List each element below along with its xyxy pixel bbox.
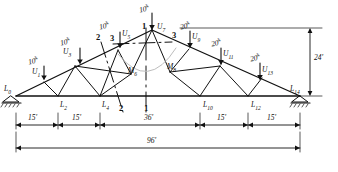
load-label-u9: 20k [179, 20, 191, 31]
dimension-line-overall [16, 132, 300, 152]
node-label-u3: U3 [63, 48, 71, 58]
node-label-u13: U13 [262, 66, 273, 76]
node-label-l12: L12 [251, 101, 261, 111]
node-label-l4: L4 [102, 101, 109, 111]
web-left-2 [58, 66, 75, 96]
web-left-strut [75, 66, 131, 74]
web-left-1 [44, 82, 58, 96]
dimension-label-96: 96' [147, 137, 156, 145]
node-label-u7: U7 [157, 23, 165, 33]
load-label-u13: 20k [249, 52, 261, 63]
load-label-u11: 20k [210, 37, 222, 48]
support-left [1, 96, 21, 107]
node-label-u1: U1 [32, 68, 40, 78]
truss-drawing [0, 0, 338, 172]
node-label-u11: U11 [223, 50, 234, 60]
dimension-label-15-c: 15' [217, 114, 226, 122]
web-left-3 [75, 66, 100, 96]
web-right-6 [248, 78, 262, 96]
dimension-line-panels [16, 113, 300, 129]
load-label-u1: 10k [27, 55, 39, 66]
section-marker-3-top: 3 [110, 34, 114, 43]
node-label-m6: M6 [128, 67, 137, 77]
section-marker-3-right: 3 [172, 31, 176, 40]
truss-diagram: 10k 10k 10k 10k 20k 20k 20k U1 U3 U5 U7 … [0, 0, 338, 172]
node-label-l10: L10 [203, 101, 213, 111]
web-right-3 [170, 72, 200, 96]
node-label-l2: L2 [60, 101, 67, 111]
node-label-l14: L14 [290, 85, 300, 95]
section-marker-2-bottom: 2 [119, 104, 123, 113]
load-label-u5: 10k [98, 20, 110, 31]
dimension-label-15-b: 15' [72, 114, 81, 122]
node-label-m8: M8 [167, 63, 176, 73]
web-right-strut [170, 66, 220, 72]
support-right [290, 96, 310, 107]
node-label-u5: U5 [122, 30, 130, 40]
dimension-label-36: 36' [144, 114, 153, 122]
web-right-4 [200, 66, 220, 96]
load-label-u3: 10k [59, 36, 71, 47]
load-arrows [41, 13, 263, 80]
dimension-label-15-a: 15' [28, 114, 37, 122]
section-marker-1-top: 1 [142, 22, 146, 31]
load-label-u7: 10k [138, 3, 150, 14]
dimension-label-15-d: 15' [267, 114, 276, 122]
section-marker-1-bottom: 1 [144, 104, 148, 113]
dimension-label-24: 24' [314, 54, 323, 62]
section-marker-2-top: 2 [96, 33, 100, 42]
node-label-u9: U9 [192, 33, 200, 43]
node-label-l0: L0 [4, 85, 11, 95]
